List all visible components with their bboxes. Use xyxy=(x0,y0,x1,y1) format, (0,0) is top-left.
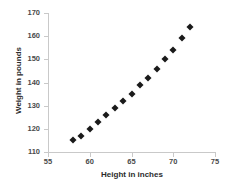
data-point xyxy=(161,56,168,63)
y-axis-title: Weight in pounds xyxy=(14,15,23,147)
data-point xyxy=(70,137,77,144)
x-axis-title: Height in inches xyxy=(48,170,216,179)
x-axis-tick-label: 70 xyxy=(161,157,185,166)
data-point xyxy=(78,132,85,139)
scatter-chart: 110120130140150160170 5560657075 Height … xyxy=(0,0,232,187)
x-axis-tick-label: 65 xyxy=(120,157,144,166)
data-point xyxy=(145,74,152,81)
data-point xyxy=(95,118,102,125)
data-point xyxy=(136,81,143,88)
data-point xyxy=(103,111,110,118)
data-point xyxy=(120,97,127,104)
data-point xyxy=(128,91,135,98)
data-point xyxy=(178,35,185,42)
data-point xyxy=(153,65,160,72)
data-point xyxy=(86,125,93,132)
plot-area xyxy=(48,13,215,152)
x-axis-tick-label: 75 xyxy=(203,157,227,166)
data-point xyxy=(111,104,118,111)
data-point xyxy=(186,23,193,30)
x-axis-tick-label: 60 xyxy=(78,157,102,166)
data-point xyxy=(170,47,177,54)
y-axis-tick-label: 110 xyxy=(18,147,40,156)
x-axis-tick-label: 55 xyxy=(36,157,60,166)
